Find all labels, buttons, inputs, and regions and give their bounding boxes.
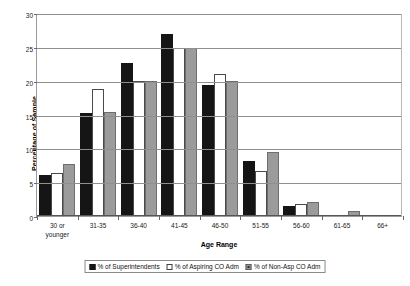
y-tick-label: 0 [29,215,33,222]
x-tick-mark [281,216,282,220]
legend-swatch-icon [90,264,96,270]
bar [63,164,75,216]
gridline [37,14,401,15]
x-tick-mark [37,216,38,220]
legend-label: % of Superintendents [98,263,160,270]
x-tick-label: 31-35 [76,222,120,231]
bar [104,112,116,216]
gridline [37,149,401,150]
x-tick-mark [240,216,241,220]
plot-area: 05101520253030 or younger31-3536-4041-45… [36,14,402,217]
y-tick-mark [34,48,37,49]
x-tick-label: 41-45 [157,222,201,231]
legend-item: % of Aspiring CO Adm [167,263,239,270]
bar [80,113,92,216]
legend-swatch-icon [246,264,252,270]
bar [255,171,267,216]
y-tick-label: 15 [26,113,33,120]
gridline [37,82,401,83]
bar [202,85,214,216]
y-tick-label: 30 [26,12,33,19]
bar [161,34,173,216]
y-tick-mark [34,183,37,184]
x-tick-label: 61-65 [320,222,364,231]
y-tick-label: 5 [29,181,33,188]
x-tick-mark [78,216,79,220]
x-tick-mark [362,216,363,220]
bar [92,89,104,216]
legend-label: % of Aspiring CO Adm [175,263,239,270]
bar [185,48,197,216]
chart-legend: % of Superintendents% of Aspiring CO Adm… [85,260,326,273]
y-tick-mark [34,14,37,15]
gridline [37,116,401,117]
y-tick-mark [34,82,37,83]
y-tick-label: 25 [26,45,33,52]
x-tick-label: 36-40 [117,222,161,231]
y-tick-label: 10 [26,147,33,154]
x-tick-mark [118,216,119,220]
gridline [37,183,401,184]
legend-swatch-icon [167,264,173,270]
x-tick-mark [403,216,404,220]
x-tick-mark [322,216,323,220]
legend-label: % of Non-Asp CO Adm [254,263,320,270]
bar [39,175,51,216]
y-tick-mark [34,116,37,117]
x-axis-line [37,215,401,216]
y-tick-label: 20 [26,79,33,86]
bar [121,63,133,216]
legend-item: % of Non-Asp CO Adm [246,263,320,270]
x-tick-label: 66+ [361,222,405,231]
bar [51,173,63,216]
y-tick-mark [34,149,37,150]
x-tick-label: 56-60 [279,222,323,231]
x-axis-title: Age Range [36,241,402,248]
x-tick-label: 46-50 [198,222,242,231]
bar [173,48,185,216]
x-tick-mark [159,216,160,220]
bar [243,161,255,216]
x-tick-label: 30 or younger [35,222,79,239]
gridline [37,48,401,49]
bar [307,202,319,216]
x-tick-label: 51-55 [239,222,283,231]
bar [226,81,238,216]
bar-chart: Percentage of Sample 05101520253030 or y… [0,0,410,286]
legend-item: % of Superintendents [90,263,160,270]
bar [214,74,226,216]
x-tick-mark [200,216,201,220]
